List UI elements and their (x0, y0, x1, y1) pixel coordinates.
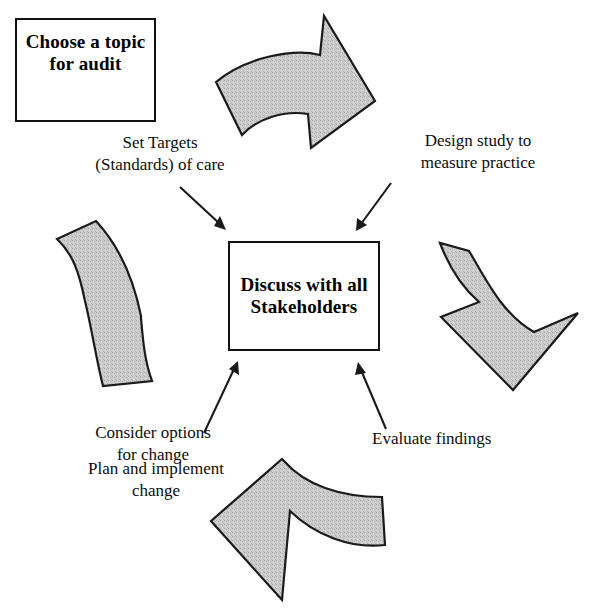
connector-design-to-center (356, 183, 391, 231)
label-plan-implement: Plan and implement change (46, 458, 266, 502)
connector-evaluate-to-center (355, 362, 386, 429)
label-set-targets: Set Targets (Standards) of care (56, 132, 264, 176)
node-discuss-stakeholders-label: Discuss with all Stakeholders (240, 274, 367, 319)
node-discuss-stakeholders[interactable]: Discuss with all Stakeholders (228, 241, 380, 351)
label-evaluate-findings: Evaluate findings (372, 428, 572, 450)
node-choose-topic-label: Choose a topic for audit (26, 31, 146, 76)
label-design-study: Design study to measure practice (378, 130, 578, 174)
node-choose-topic[interactable]: Choose a topic for audit (15, 18, 156, 122)
connector-targets-to-center (180, 187, 226, 230)
cycle-arrow-top (216, 16, 375, 148)
audit-cycle-diagram: Choose a topic for audit Discuss with al… (0, 0, 592, 615)
cycle-arrow-right (440, 243, 578, 390)
